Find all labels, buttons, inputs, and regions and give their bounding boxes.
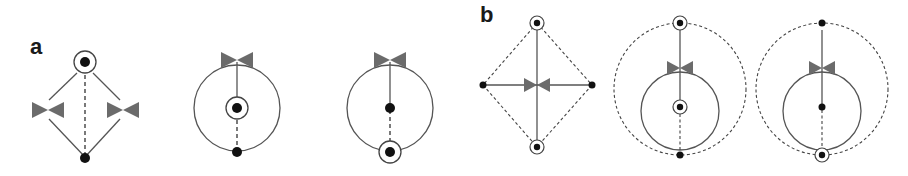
circled-vertex-icon	[226, 97, 248, 119]
vertex-icon	[819, 20, 826, 27]
diagram-a1	[32, 51, 139, 163]
vertex-icon	[385, 103, 395, 113]
diagram-a3	[347, 52, 433, 163]
diagram-canvas	[0, 0, 908, 176]
dashed-edge	[537, 85, 592, 147]
bowtie-icon	[32, 102, 64, 118]
dashed-edge	[537, 23, 592, 85]
circled-vertex-icon	[815, 148, 829, 162]
edge	[93, 73, 120, 100]
dashed-edge	[483, 85, 537, 147]
bowtie-icon	[107, 102, 139, 118]
diagram-b3	[756, 20, 888, 163]
vertex-icon	[80, 153, 90, 163]
diagram-b2	[614, 16, 746, 159]
circled-vertex-icon	[530, 140, 544, 154]
circled-vertex-icon	[673, 16, 687, 30]
vertex-icon	[677, 152, 684, 159]
circled-vertex-icon	[74, 51, 96, 73]
diagram-a2	[194, 52, 280, 157]
edge	[49, 119, 85, 157]
vertex-icon	[589, 82, 596, 89]
dashed-edge	[483, 23, 537, 85]
vertex-icon	[232, 147, 242, 157]
diagram-b1	[480, 16, 596, 154]
circled-vertex-icon	[530, 16, 544, 30]
circled-vertex-icon	[379, 141, 401, 163]
edge	[85, 119, 120, 157]
circled-vertex-icon	[673, 100, 687, 114]
vertex-icon	[480, 82, 487, 89]
vertex-icon	[819, 104, 826, 111]
edge	[49, 73, 77, 100]
